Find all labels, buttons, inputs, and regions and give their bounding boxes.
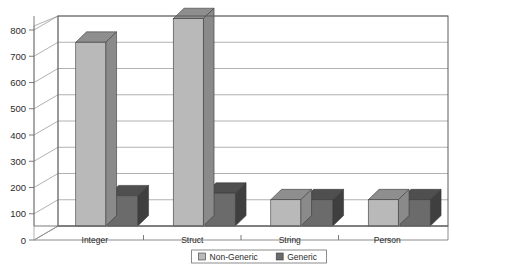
x-axis-label-string: String <box>279 235 301 245</box>
bar-integer-non-generic <box>76 32 117 226</box>
legend-swatch-1 <box>276 253 283 260</box>
bar-string-non-generic <box>271 189 312 226</box>
bar-string-non-generic-front-face <box>271 200 301 226</box>
bar-chart: 0100200300400500600700800 IntegerStructS… <box>0 0 506 270</box>
y-tick-label-100: 100 <box>10 208 26 219</box>
bar-integer-non-generic-side-face <box>106 32 117 226</box>
legend-item-generic: Generic <box>276 252 318 262</box>
bar-person-non-generic <box>368 189 409 226</box>
y-tick-label-0: 0 <box>21 235 26 246</box>
legend-swatch-0 <box>199 253 206 260</box>
x-axis-label-integer: Integer <box>82 235 109 245</box>
y-tick-label-200: 200 <box>10 182 26 193</box>
chart-legend: Non-GenericGeneric <box>192 250 327 263</box>
x-axis-label-person: Person <box>374 235 401 245</box>
y-tick-label-300: 300 <box>10 156 26 167</box>
y-tick-label-400: 400 <box>10 130 26 141</box>
bar-struct-non-generic-side-face <box>203 8 214 226</box>
bar-struct-non-generic <box>173 8 214 226</box>
legend-label-1: Generic <box>287 252 318 262</box>
y-tick-label-500: 500 <box>10 103 26 114</box>
y-tick-label-600: 600 <box>10 77 26 88</box>
legend-label-0: Non-Generic <box>210 252 259 262</box>
y-tick-label-700: 700 <box>10 51 26 62</box>
y-tick-label-800: 800 <box>10 25 26 36</box>
x-axis-label-struct: Struct <box>181 235 204 245</box>
bar-person-non-generic-front-face <box>368 200 398 226</box>
y-axis-ticks: 0100200300400500600700800 <box>10 25 34 246</box>
bar-integer-non-generic-front-face <box>76 42 106 226</box>
chart-canvas: 0100200300400500600700800 IntegerStructS… <box>0 0 506 270</box>
bar-struct-non-generic-front-face <box>173 19 203 226</box>
